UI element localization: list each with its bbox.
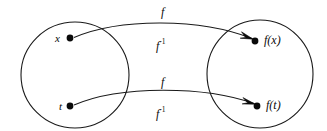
label-finv-bottom: f-1: [156, 107, 166, 120]
label-point-fx: f(x): [264, 34, 281, 46]
dot-point-fx: [252, 38, 259, 45]
label-point-ft: f(t): [266, 99, 281, 111]
label-f-bottom-text: f: [161, 75, 164, 89]
dot-point-ft: [254, 103, 261, 110]
function-inverse-diagram: x t f(x) f(t) f f-1 f f-1: [0, 0, 327, 131]
dot-point-t: [67, 103, 74, 110]
domain-set-circle: [21, 22, 129, 128]
label-point-t: t: [59, 101, 62, 112]
label-f-top: f: [161, 5, 164, 18]
codomain-set-circle: [207, 20, 313, 128]
label-f-bottom: f: [161, 75, 164, 88]
label-finv-bottom-sup: -1: [159, 105, 165, 114]
label-point-x: x: [55, 33, 60, 44]
dot-point-x: [67, 35, 74, 42]
label-finv-top-sup: -1: [159, 37, 165, 46]
label-f-top-text: f: [161, 5, 164, 19]
arrow-t-to-ft-curve: [74, 90, 254, 105]
label-finv-top: f-1: [156, 39, 166, 52]
arrow-t-to-ft-head: [242, 98, 255, 105]
